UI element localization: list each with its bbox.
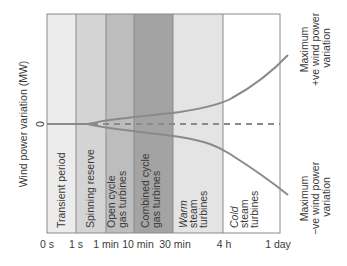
band-label-ocgt: Open cycle gas turbines: [105, 171, 128, 228]
tick-10min: 10 min: [122, 238, 154, 250]
max-positive-variation-label: Maximum +ve wind power variation: [298, 10, 332, 86]
tick-4h: 4 h: [217, 238, 232, 250]
y-axis-title: Wind power variation (MW): [17, 61, 29, 188]
band-label-transient: Transient period: [54, 152, 66, 228]
tick-1min: 1 min: [93, 238, 119, 250]
tick-0s: 0 s: [40, 238, 54, 250]
tick-1s: 1 s: [69, 238, 83, 250]
max-negative-variation-label: Maximum −ve wind power variation: [298, 159, 332, 235]
tick-1day: 1 day: [265, 238, 291, 250]
band-label-spinning: Spinning reserve: [84, 149, 96, 228]
tick-30min: 30 min: [159, 238, 191, 250]
wind-power-variation-diagram: Wind power variation (MW) 0 Transient pe…: [0, 0, 347, 266]
time-axis-labels: 0 s 1 s 1 min 10 min 30 min 4 h 1 day: [40, 238, 292, 250]
zero-label: 0: [34, 121, 46, 127]
